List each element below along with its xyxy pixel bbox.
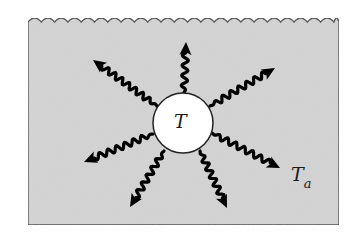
ambient-temperature-label: Ta: [291, 163, 311, 189]
body-temperature-label: T: [174, 110, 187, 132]
ambient-temperature-subscript: a: [304, 176, 312, 191]
ambient-temperature-symbol: T: [291, 163, 304, 185]
